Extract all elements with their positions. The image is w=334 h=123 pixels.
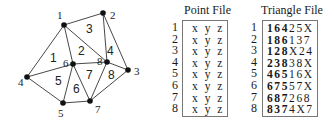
triangle-neighbors: 57X [289,80,314,92]
triangle-neighbors: 4X7 [289,103,314,115]
point-file-row-numbers: 12345678 [170,22,178,115]
triangle-vertices: 687 [267,92,289,104]
triangle-vertices: 164 [267,22,289,34]
node-label: 5 [58,107,64,119]
triangle-label: 3 [86,22,93,36]
row-number: 8 [170,103,178,115]
node-label: 1 [57,9,63,21]
triangle-label: 6 [73,82,80,96]
mesh-node [104,59,110,65]
triangle-neighbors: 137 [289,34,311,46]
triangle-label: 8 [108,68,115,82]
triangle-label: 7 [86,68,93,82]
node-label: 8 [97,55,103,67]
triangle-neighbors: 25X [289,22,314,34]
mesh-edge [63,64,73,103]
triangle-row: 8374X7 [263,104,317,116]
triangle-neighbors: 268 [289,92,311,104]
triangle-vertices: 128 [267,45,289,57]
point-row: x y z [183,104,227,116]
triangulated-mesh-diagram: 1234567812345678 [0,0,170,123]
point-file-table: x y zx y zx y zx y zx y zx y zx y zx y z [182,20,228,117]
mesh-node [87,98,93,104]
triangle-vertices: 238 [267,57,289,69]
triangle-vertices: 465 [267,68,289,80]
node-label: 4 [18,76,24,88]
triangle-file-row-numbers: 12345678 [248,22,257,115]
mesh-node [60,100,66,106]
point-file-title: Point File [184,3,231,17]
triangle-neighbors: X24 [289,45,314,57]
mesh-node [70,61,76,67]
mesh-node [61,22,67,28]
mesh-node [24,74,30,80]
triangle-file-table: 16425X186137128X2423838X46516X67557X6872… [262,20,318,117]
mesh-edge [64,13,103,25]
triangle-label: 1 [50,51,57,65]
triangle-file-title: Triangle File [261,3,323,17]
node-label: 3 [134,65,140,77]
triangle-vertices: 675 [267,80,289,92]
mesh-edge [27,25,64,77]
point-row: x y z [183,23,227,35]
mesh-node [125,67,131,73]
node-label: 2 [110,9,116,21]
row-number: 8 [248,103,257,115]
mesh-node [100,10,106,16]
point-row: x y z [183,81,227,93]
node-label: 6 [63,57,69,69]
triangle-label: 2 [78,44,85,58]
triangle-vertices: 837 [267,103,289,115]
triangle-label: 5 [55,74,62,88]
triangle-label: 4 [107,44,114,58]
triangle-neighbors: 38X [289,57,314,69]
triangle-vertices: 186 [267,34,289,46]
mesh-edge [63,101,90,103]
triangle-neighbors: 16X [289,68,314,80]
node-label: 7 [95,103,101,115]
